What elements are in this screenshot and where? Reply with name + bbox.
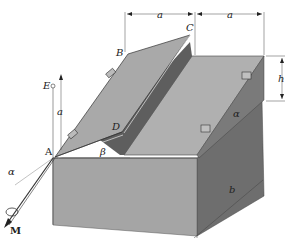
angle-alpha-right: α [233, 108, 240, 119]
dim-a-right: a [227, 9, 233, 20]
label-C: C [186, 22, 194, 33]
label-A: A [44, 146, 53, 157]
dim-b: b [229, 184, 235, 195]
engineering-diagram: a a h b E a B C D A β α α M [0, 0, 297, 238]
dim-a-vertical: a [57, 106, 63, 117]
box-front-main [53, 158, 197, 236]
label-E: E [42, 80, 51, 91]
label-D: D [111, 121, 120, 132]
angle-alpha-left: α [8, 166, 15, 177]
hinge-icon [242, 72, 251, 79]
label-M: M [10, 225, 21, 236]
hinge-icon [201, 125, 210, 132]
angle-beta: β [99, 146, 106, 157]
dim-h: h [278, 73, 284, 84]
dim-a-left: a [157, 9, 163, 20]
label-B: B [115, 47, 123, 58]
